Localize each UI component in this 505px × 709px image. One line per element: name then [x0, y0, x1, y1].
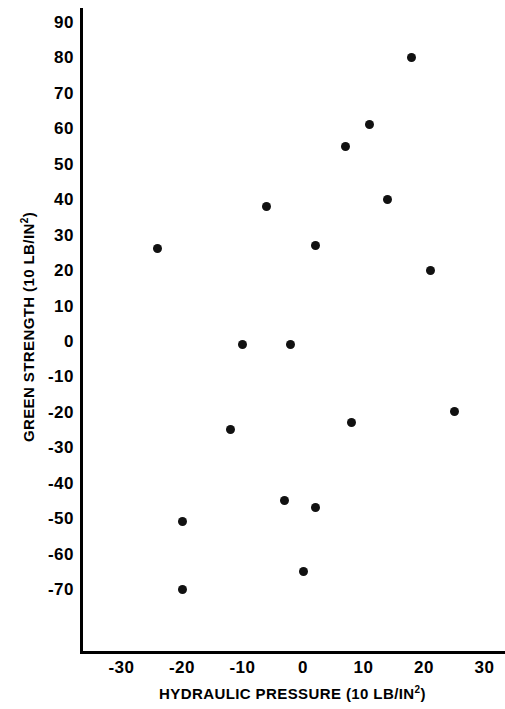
- y-axis-title-tail: ): [20, 212, 37, 217]
- data-point: [178, 517, 187, 526]
- data-point: [407, 53, 416, 62]
- data-point: [153, 244, 162, 253]
- data-point: [262, 202, 271, 211]
- data-point: [280, 496, 289, 505]
- x-axis-title-tail: ): [420, 685, 425, 702]
- data-point: [311, 503, 320, 512]
- data-point: [450, 407, 459, 416]
- data-point: [238, 340, 247, 349]
- scatter-plot-figure: -70-60-50-40-30-20-100102030405060708090…: [0, 0, 505, 709]
- plot-data-area: [0, 0, 505, 709]
- y-axis-title-exponent: 2: [19, 217, 30, 223]
- data-point: [299, 567, 308, 576]
- data-point: [286, 340, 295, 349]
- data-point: [426, 266, 435, 275]
- data-point: [347, 418, 356, 427]
- data-point: [226, 425, 235, 434]
- data-point: [365, 120, 374, 129]
- y-axis-title-text: GREEN STRENGTH (10 LB/IN: [20, 223, 37, 442]
- data-point: [178, 585, 187, 594]
- data-point: [311, 241, 320, 250]
- data-point: [383, 195, 392, 204]
- x-axis-title-text: HYDRAULIC PRESSURE (10 LB/IN: [159, 685, 414, 702]
- x-axis-title: HYDRAULIC PRESSURE (10 LB/IN2): [80, 684, 505, 702]
- y-axis-title: GREEN STRENGTH (10 LB/IN2): [19, 147, 37, 507]
- data-point: [341, 142, 350, 151]
